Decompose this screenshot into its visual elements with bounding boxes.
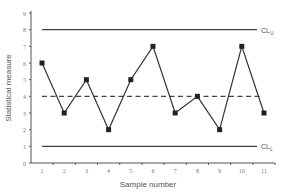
y-tick-label: 9 [23, 11, 26, 17]
x-tick-label: 9 [218, 168, 221, 174]
data-series [40, 44, 267, 132]
y-tick-label: 0 [23, 161, 26, 167]
x-tick-label: 8 [196, 168, 199, 174]
x-tick-label: 10 [239, 168, 245, 174]
x-tick-label: 7 [174, 168, 177, 174]
x-tick-label: 11 [261, 168, 267, 174]
y-tick-label: 2 [23, 127, 26, 133]
data-point-marker [62, 111, 67, 116]
x-tick-label: 2 [63, 168, 66, 174]
y-axis-label: Statistical measure [4, 54, 13, 122]
data-point-marker [84, 77, 89, 82]
y-tick-label: 5 [23, 77, 26, 83]
control-limit-label: CLU [261, 27, 274, 36]
x-tick-label: 5 [129, 168, 132, 174]
data-point-marker [151, 44, 156, 49]
y-tick-label: 8 [23, 27, 26, 33]
data-point-marker [106, 127, 111, 132]
series-line [42, 46, 264, 129]
data-point-marker [128, 77, 133, 82]
data-point-marker [195, 94, 200, 99]
y-tick-label: 7 [23, 44, 26, 50]
y-tick-label: 1 [23, 144, 26, 150]
control-chart: 01234567891234567891011 CLUCLL Sample nu… [0, 0, 289, 192]
x-tick-label: 4 [107, 168, 110, 174]
data-point-marker [239, 44, 244, 49]
data-point-marker [40, 61, 45, 66]
data-point-marker [262, 111, 267, 116]
y-tick-label: 6 [23, 61, 26, 67]
control-limit-lines: CLUCLL [42, 27, 274, 153]
y-tick-label: 3 [23, 111, 26, 117]
x-tick-label: 6 [152, 168, 155, 174]
x-tick-label: 1 [41, 168, 44, 174]
axes: 01234567891234567891011 [23, 11, 275, 175]
data-point-marker [217, 127, 222, 132]
x-axis-label: Sample number [120, 180, 177, 189]
control-limit-label: CLL [261, 143, 273, 152]
data-point-marker [173, 111, 178, 116]
y-tick-label: 4 [23, 94, 26, 100]
x-tick-label: 3 [85, 168, 88, 174]
